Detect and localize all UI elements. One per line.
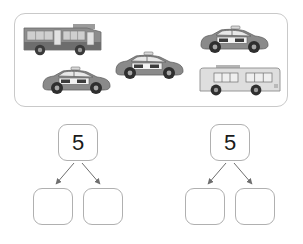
bond-part-box-a[interactable] [33,188,73,225]
vehicle-taxi-1 [41,64,113,97]
number-bond-section: 5 5 [0,118,303,244]
taxi-icon [41,64,113,97]
taxi-icon [199,23,271,56]
vehicle-taxi-2 [114,49,186,82]
vehicle-bus-1 [23,24,105,57]
vehicle-picture-box [14,13,288,107]
number-bond-left: 5 [8,118,148,244]
vehicle-taxi-3 [199,23,271,56]
bond-part-box-a[interactable] [185,188,225,225]
bond-part-box-b[interactable] [235,188,275,225]
vehicle-bus-2 [198,65,282,99]
bond-part-box-b[interactable] [83,188,123,225]
number-bond-right: 5 [160,118,300,244]
bus-icon [23,24,105,57]
bond-whole-box[interactable]: 5 [58,124,98,161]
taxi-icon [114,49,186,82]
bus-icon [198,65,282,99]
bond-whole-box[interactable]: 5 [210,124,250,161]
